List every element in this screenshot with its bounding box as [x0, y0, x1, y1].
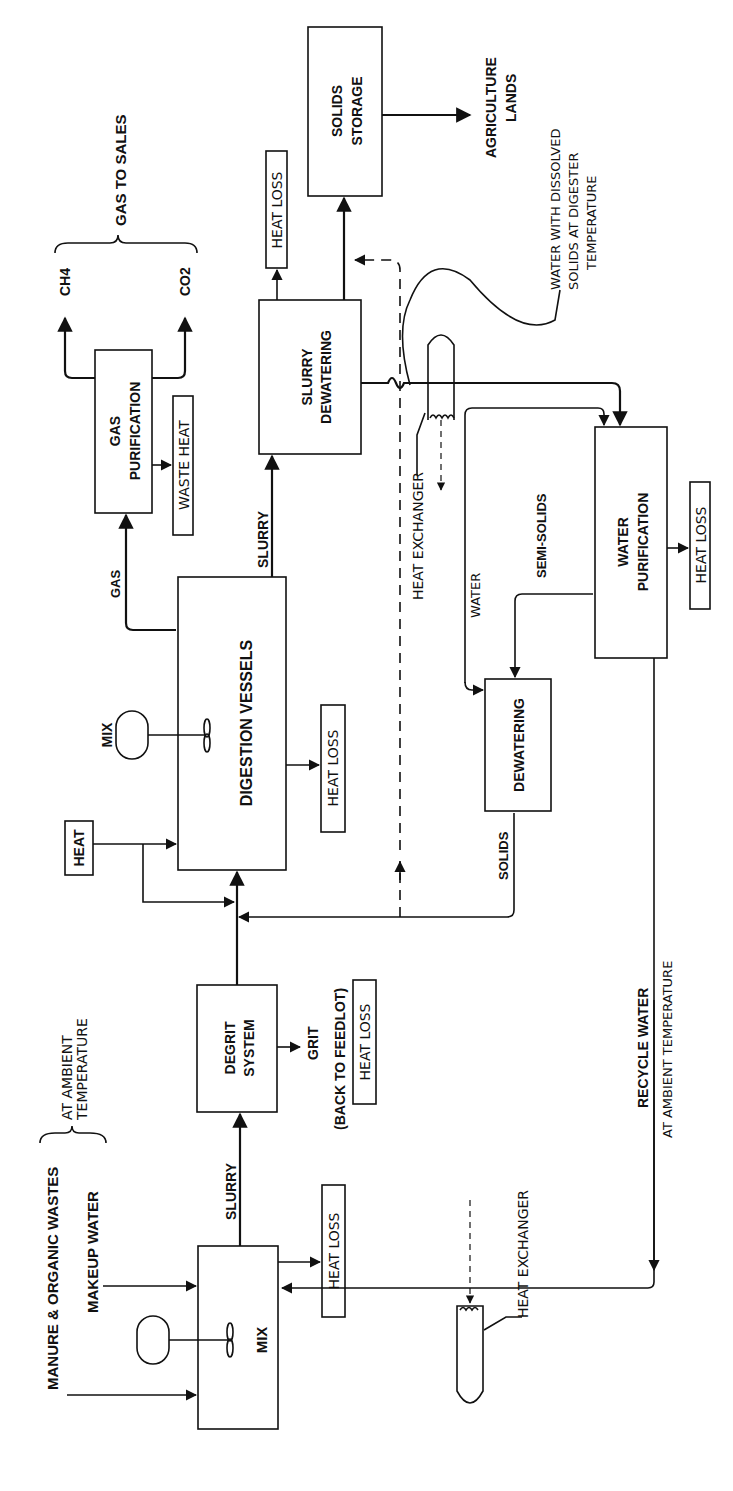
svg-text:DEGRIT: DEGRIT: [222, 1021, 238, 1074]
svg-text:TEMPERATURE: TEMPERATURE: [584, 175, 599, 271]
mix-tank-box: MIX: [198, 1246, 278, 1429]
svg-text:HEAT LOSS: HEAT LOSS: [693, 506, 709, 583]
heat-loss-water-purification: HEAT LOSS: [690, 482, 710, 609]
svg-text:DEWATERING: DEWATERING: [318, 330, 334, 424]
svg-text:RECYCLE WATER: RECYCLE WATER: [635, 988, 651, 1108]
svg-text:HEAT: HEAT: [71, 829, 87, 867]
water-purification-box: WATER PURIFICATION: [595, 427, 667, 658]
svg-text:WATER: WATER: [615, 517, 631, 567]
svg-text:PURIFICATION: PURIFICATION: [635, 493, 651, 592]
heat-loss-digester: HEAT LOSS: [321, 705, 345, 832]
svg-text:SEMI-SOLIDS: SEMI-SOLIDS: [534, 493, 549, 578]
heat-loss-slurry-dewatering: HEAT LOSS: [266, 151, 287, 268]
slurry-dewatering-box: SLURRY DEWATERING: [259, 300, 361, 454]
svg-text:SLURRY: SLURRY: [299, 348, 315, 406]
waste-heat-box: WASTE HEAT: [173, 396, 193, 535]
svg-text:HEAT EXCHANGER: HEAT EXCHANGER: [410, 472, 426, 600]
svg-text:CO2: CO2: [177, 267, 193, 296]
heat-loss-degrit: HEAT LOSS: [353, 980, 376, 1104]
svg-text:(BACK TO FEEDLOT): (BACK TO FEEDLOT): [332, 988, 348, 1130]
svg-text:AT AMBIENT: AT AMBIENT: [59, 1035, 75, 1120]
heat-exchanger-lower-icon: HEAT EXCHANGER: [457, 1190, 531, 1403]
ambient-brace: [40, 1126, 106, 1143]
heat-loss-mix: HEAT LOSS: [322, 1185, 345, 1317]
digestion-vessels-label: DIGESTION VESSELS: [238, 640, 255, 807]
gas-to-sales-brace: [55, 235, 197, 253]
svg-text:HEAT LOSS: HEAT LOSS: [357, 1003, 373, 1080]
svg-text:AGRICULTURE: AGRICULTURE: [483, 57, 499, 158]
makeup-water-label: MAKEUP WATER: [84, 1191, 101, 1313]
svg-text:SLURRY: SLURRY: [255, 510, 271, 568]
svg-text:SLURRY: SLURRY: [223, 1162, 239, 1220]
degrit-system-box: DEGRIT SYSTEM: [197, 985, 277, 1112]
svg-text:SYSTEM: SYSTEM: [241, 1019, 257, 1077]
svg-text:STORAGE: STORAGE: [349, 77, 365, 146]
svg-text:WATER WITH DISSOLVED: WATER WITH DISSOLVED: [548, 129, 563, 290]
solids-storage-box: SOLIDS STORAGE: [308, 27, 382, 196]
svg-text:PURIFICATION: PURIFICATION: [127, 382, 143, 481]
svg-text:LANDS: LANDS: [503, 74, 519, 122]
manure-input-label: MANURE & ORGANIC WASTES: [44, 1167, 61, 1390]
svg-text:GAS: GAS: [108, 570, 123, 599]
heat-source-box: HEAT: [65, 821, 93, 875]
svg-text:GRIT: GRIT: [305, 1026, 321, 1060]
svg-text:DEWATERING: DEWATERING: [511, 698, 527, 792]
svg-text:MIX: MIX: [99, 722, 115, 748]
svg-text:HEAT LOSS: HEAT LOSS: [326, 1212, 342, 1289]
dewatering-box: DEWATERING: [485, 679, 551, 811]
svg-text:CH4: CH4: [57, 268, 73, 296]
svg-text:HEAT LOSS: HEAT LOSS: [325, 729, 341, 806]
svg-text:SOLIDS AT DIGESTER: SOLIDS AT DIGESTER: [566, 153, 581, 290]
svg-text:GAS TO SALES: GAS TO SALES: [112, 115, 129, 226]
mix-tank-label: MIX: [253, 1327, 270, 1354]
svg-text:AT AMBIENT TEMPERATURE: AT AMBIENT TEMPERATURE: [660, 961, 675, 1138]
process-flow-diagram: MIX DEGRIT SYSTEM DIGESTION VESSELS MIX …: [0, 0, 733, 1491]
svg-text:WATER: WATER: [468, 573, 483, 618]
gas-purification-box: GAS PURIFICATION: [95, 350, 152, 513]
svg-text:SOLIDS: SOLIDS: [496, 831, 511, 880]
svg-text:TEMPERATURE: TEMPERATURE: [74, 1018, 90, 1121]
digestion-vessels-box: DIGESTION VESSELS: [178, 577, 286, 870]
svg-text:GAS: GAS: [107, 416, 123, 446]
svg-text:HEAT EXCHANGER: HEAT EXCHANGER: [515, 1190, 531, 1318]
heat-exchanger-upper-icon: HEAT EXCHANGER: [410, 335, 454, 600]
svg-text:WASTE HEAT: WASTE HEAT: [176, 420, 192, 510]
svg-text:SOLIDS: SOLIDS: [329, 85, 345, 137]
svg-text:HEAT LOSS: HEAT LOSS: [269, 171, 285, 248]
